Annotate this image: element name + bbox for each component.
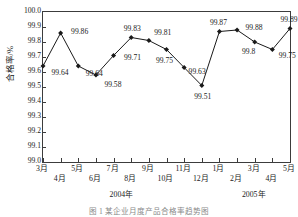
data-point-label: 99.75	[156, 57, 173, 65]
y-tick-label: 99.7	[28, 52, 41, 60]
x-axis-tick-labels: 3月4月5月6月7月8月9月10月11月12月1月2月3月4月5月	[42, 164, 291, 190]
data-point-label: 99.64	[86, 70, 103, 78]
data-point-label: 99.83	[124, 25, 141, 33]
data-point-label: 99.75	[279, 52, 296, 60]
data-point-label: 99.58	[104, 81, 121, 89]
data-point-label: 99.63	[189, 68, 206, 76]
data-point-label: 99.89	[280, 16, 297, 24]
plot-inner: 99.6499.8699.6499.5899.7199.8399.8199.75…	[43, 12, 290, 162]
x-tick-label: 4月	[54, 175, 66, 183]
data-point-label: 99.88	[246, 24, 263, 32]
x-tick-label: 12月	[193, 175, 209, 183]
y-tick-label: 99.2	[28, 127, 41, 135]
y-tick-label: 99.1	[28, 142, 41, 150]
x-tick-label: 5月	[283, 165, 295, 173]
x-tick-label: 9月	[142, 165, 154, 173]
x-tick-label: 8月	[124, 175, 136, 183]
y-tick-label: 99.3	[28, 112, 41, 120]
data-point-marker	[58, 31, 63, 36]
data-point-label: 99.86	[71, 28, 88, 36]
plot-area: 99.6499.8699.6499.5899.7199.8399.8199.75…	[42, 11, 291, 163]
data-point-marker	[146, 38, 151, 43]
y-tick-label: 99.8	[28, 37, 41, 45]
x-tick-label: 10月	[158, 175, 174, 183]
data-point-label: 99.71	[124, 54, 141, 62]
y-tick-label: 99.4	[28, 97, 41, 105]
x-tick-label: 6月	[89, 175, 101, 183]
x-tick-label: 5月	[71, 165, 83, 173]
y-tick-label: 99.5	[28, 82, 41, 90]
x-axis-group-label: 2005年	[242, 191, 266, 199]
y-axis-tick	[43, 162, 46, 163]
y-axis-tick-labels: 100.099.999.899.799.699.599.499.399.299.…	[11, 0, 41, 217]
y-tick-label: 99.9	[28, 22, 41, 30]
x-tick-label: 2月	[230, 175, 242, 183]
chart-figure: 合格率/% 100.099.999.899.799.699.599.499.39…	[0, 0, 298, 217]
y-tick-label: 99.6	[28, 67, 41, 75]
data-point-label: 99.64	[51, 69, 68, 77]
x-tick-label: 3月	[248, 165, 260, 173]
y-tick-label: 100.0	[24, 7, 41, 15]
figure-caption: 图 1 某企业月度产品合格率趋势图	[0, 208, 298, 216]
data-point-marker	[217, 29, 222, 34]
x-axis-group-label: 2004年	[110, 191, 134, 199]
x-tick-label: 4月	[265, 175, 277, 183]
data-point-label: 99.51	[194, 93, 211, 101]
data-point-label: 99.81	[154, 29, 171, 37]
x-tick-label: 3月	[36, 165, 48, 173]
x-tick-label: 7月	[107, 165, 119, 173]
x-tick-label: 11月	[175, 165, 191, 173]
data-point-marker	[41, 64, 46, 69]
data-point-marker	[76, 64, 81, 69]
x-axis-tick	[290, 158, 291, 162]
x-tick-label: 1月	[212, 165, 224, 173]
data-point-label: 99.8	[242, 48, 255, 56]
data-point-label: 99.87	[210, 19, 227, 27]
